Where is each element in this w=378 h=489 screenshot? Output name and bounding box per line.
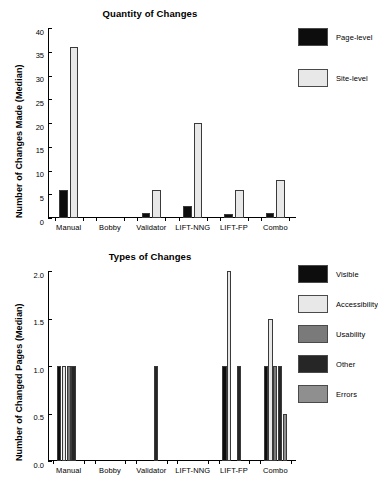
bar-visible-manual: [57, 366, 61, 461]
x-tick-mark: [208, 461, 209, 464]
plot-area-types: 0.00.51.01.52.0ManualBobbyValidatorLIFT-…: [48, 271, 296, 461]
bar-visible-lift-fp: [222, 366, 226, 461]
legend-label: Errors: [336, 390, 357, 399]
y-tick-label: 30: [36, 76, 48, 84]
y-tick-mark: [48, 28, 52, 29]
chart-title-quantity: Quantity of Changes: [0, 8, 300, 19]
y-tick-label: 25: [36, 100, 48, 108]
x-tick-mark: [137, 218, 138, 221]
y-tick-label: 10: [36, 171, 48, 179]
x-category-label-validator: Validator: [136, 466, 166, 475]
x-axis-line-types: [48, 460, 296, 461]
x-tick-mark: [84, 461, 85, 464]
bar-site-level-lift-nng: [194, 123, 203, 218]
x-tick-mark: [55, 218, 56, 221]
x-category-label-combo: Combo: [263, 223, 288, 232]
x-category-label-lift-fp: LIFT-FP: [220, 466, 248, 475]
bar-usability-manual: [67, 366, 71, 461]
x-category-label-bobby: Bobby: [99, 466, 121, 475]
y-tick-label: 40: [36, 28, 48, 36]
chart-panel-quantity-of-changes: Quantity of Changes Number of Changes Ma…: [0, 0, 364, 245]
bar-other-lift-fp: [237, 366, 241, 461]
y-tick-label: 5: [40, 195, 48, 203]
legend-item-errors: Errors: [298, 385, 357, 403]
bar-page-level-validator: [142, 213, 151, 218]
bar-usability-combo: [273, 366, 277, 461]
plot-area-quantity: 0510152025303540ManualBobbyValidatorLIFT…: [48, 28, 296, 218]
legend-item-usability: Usability: [298, 325, 365, 343]
legend-item-site-level: Site-level: [298, 69, 368, 87]
legend-swatch-visible: [298, 265, 328, 283]
x-category-label-lift-nng: LIFT-NNG: [175, 466, 210, 475]
bar-accessibility-lift-fp: [227, 271, 231, 461]
legend-item-visible: Visible: [298, 265, 359, 283]
y-tick-label: 2.0: [34, 271, 48, 279]
legend-swatch-errors: [298, 385, 328, 403]
bar-site-level-manual: [70, 47, 79, 218]
x-tick-mark: [125, 461, 126, 464]
y-tick-label: 35: [36, 52, 48, 60]
y-tick-mark: [48, 194, 52, 195]
y-tick-mark: [48, 366, 52, 367]
y-tick-mark: [48, 171, 52, 172]
bar-accessibility-manual: [62, 366, 66, 461]
x-category-label-manual: Manual: [56, 466, 81, 475]
x-tick-mark: [124, 218, 125, 221]
y-tick-mark: [48, 123, 52, 124]
x-tick-mark: [95, 461, 96, 464]
legend-label: Visible: [336, 270, 359, 279]
x-tick-mark: [291, 461, 292, 464]
y-tick-label: 1.0: [34, 366, 48, 374]
legend-label: Page-level: [336, 33, 372, 42]
bar-other-manual: [71, 366, 75, 461]
y-tick-mark: [48, 319, 52, 320]
bar-site-level-combo: [276, 180, 285, 218]
x-tick-mark: [83, 218, 84, 221]
x-category-label-bobby: Bobby: [99, 223, 121, 232]
x-category-label-combo: Combo: [263, 466, 288, 475]
y-tick-mark: [48, 99, 52, 100]
y-tick-mark: [48, 414, 52, 415]
x-category-label-lift-nng: LIFT-NNG: [175, 223, 210, 232]
bar-errors-combo: [283, 414, 287, 462]
x-category-label-lift-fp: LIFT-FP: [220, 223, 248, 232]
x-tick-mark: [177, 461, 178, 464]
x-tick-mark: [248, 218, 249, 221]
bar-other-validator: [154, 366, 158, 461]
x-tick-mark: [260, 461, 261, 464]
legend-item-accessibility: Accessibility: [298, 295, 378, 313]
x-category-label-validator: Validator: [136, 223, 166, 232]
x-tick-mark: [261, 218, 262, 221]
legend-swatch-accessibility: [298, 295, 328, 313]
y-tick-label: 15: [36, 147, 48, 155]
bar-accessibility-combo: [268, 319, 272, 462]
legend-label: Other: [336, 360, 355, 369]
bar-site-level-validator: [152, 190, 161, 219]
y-tick-mark: [48, 52, 52, 53]
y-tick-mark: [48, 218, 52, 219]
x-tick-mark: [207, 218, 208, 221]
legend-swatch-site-level: [298, 69, 328, 87]
legend-swatch-usability: [298, 325, 328, 343]
x-tick-mark: [219, 461, 220, 464]
x-tick-mark: [289, 218, 290, 221]
legend-swatch-page-level: [298, 28, 328, 46]
bar-page-level-lift-nng: [183, 206, 192, 218]
x-axis-line-quantity: [48, 217, 296, 218]
bar-page-level-manual: [59, 190, 68, 219]
bar-visible-combo: [264, 366, 268, 461]
x-tick-mark: [136, 461, 137, 464]
y-tick-label: 1.5: [34, 319, 48, 327]
y-tick-label: 0.0: [34, 461, 48, 469]
legend-item-other: Other: [298, 355, 355, 373]
legend-label: Usability: [336, 330, 365, 339]
bar-site-level-lift-fp: [235, 190, 244, 219]
x-tick-mark: [96, 218, 97, 221]
x-category-label-manual: Manual: [56, 223, 81, 232]
legend-label: Site-level: [336, 74, 368, 83]
x-tick-mark: [165, 218, 166, 221]
chart-title-types: Types of Changes: [0, 251, 300, 262]
legend-item-page-level: Page-level: [298, 28, 372, 46]
x-tick-mark: [179, 218, 180, 221]
